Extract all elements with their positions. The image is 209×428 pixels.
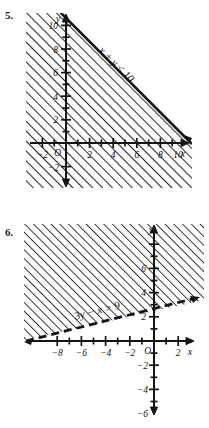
x-tick-label: 2 xyxy=(176,348,181,358)
problem-5: 5. xyxy=(0,0,209,200)
y-tick-label: 8 xyxy=(53,45,58,55)
problem-5-graph: −2 2 4 6 8 10 10 8 6 4 2 −2 O x y xyxy=(26,13,192,188)
x-tick-label: 4 xyxy=(111,150,116,160)
graph-5-svg: −2 2 4 6 8 10 10 8 6 4 2 −2 O x y xyxy=(26,13,192,188)
x-tick-label: 6 xyxy=(134,150,139,160)
y-tick-label: 4 xyxy=(53,92,58,102)
graph-6-svg: −8 −6 −4 −2 2 6 4 2 −2 −4 −6 O x y 3y − xyxy=(24,224,204,420)
x-axis-label-5: x xyxy=(180,148,186,159)
problem-6-graph: −8 −6 −4 −2 2 6 4 2 −2 −4 −6 O x y 3y − xyxy=(24,224,204,420)
x-tick-label: 8 xyxy=(158,150,163,160)
x-tick-label: 2 xyxy=(87,150,92,160)
y-tick-label: −4 xyxy=(137,385,148,395)
x-axis-label-6: x xyxy=(187,346,193,357)
problem-6-number: 6. xyxy=(5,226,13,238)
y-axis-label-6: y xyxy=(148,224,154,235)
x-tick-label: −8 xyxy=(52,348,63,358)
shaded-region-6 xyxy=(24,224,204,352)
y-tick-label: 6 xyxy=(141,264,146,274)
y-tick-label: 2 xyxy=(53,115,58,125)
x-tick-label: −4 xyxy=(100,348,111,358)
problem-5-number: 5. xyxy=(5,9,13,21)
y-tick-label: −6 xyxy=(137,409,148,419)
x-tick-label: −2 xyxy=(37,150,48,160)
y-axis-label-5: y xyxy=(55,13,61,24)
x-tick-label: −6 xyxy=(76,348,87,358)
origin-label-5: O xyxy=(54,148,61,158)
y-tick-label: −2 xyxy=(48,163,59,173)
x-tick-label: −2 xyxy=(124,348,135,358)
origin-label-6: O xyxy=(144,346,151,356)
y-tick-label: 2 xyxy=(141,312,146,322)
y-tick-label: 4 xyxy=(141,288,146,298)
y-tick-label: 6 xyxy=(53,68,58,78)
problem-6: 6. xyxy=(0,200,209,428)
y-tick-label: −2 xyxy=(137,361,148,371)
